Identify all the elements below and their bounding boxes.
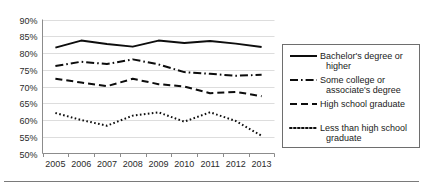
x-tick-label: 2010 (174, 159, 194, 169)
legend-label-1: Some college or (320, 75, 385, 85)
x-tick-label: 2006 (71, 159, 91, 169)
y-axis-tick-labels: 90%85%80%75%70%65%60%55%50% (19, 16, 37, 160)
x-tick-label: 2007 (97, 159, 117, 169)
y-tick-label: 70% (19, 83, 37, 93)
y-tick-label: 60% (19, 116, 37, 126)
x-tick-label: 2009 (148, 159, 168, 169)
y-tick-label: 80% (19, 49, 37, 59)
legend-label-2: High school graduate (320, 99, 405, 109)
legend-label-1-line2: associate's degree (326, 85, 401, 95)
x-tick-label: 2013 (252, 159, 272, 169)
line-chart: 90%85%80%75%70%65%60%55%50% 200520062007… (0, 0, 423, 187)
y-tick-label: 85% (19, 32, 37, 42)
chart-canvas: 90%85%80%75%70%65%60%55%50% 200520062007… (0, 0, 423, 187)
legend-label-0: Bachelor's degree or (320, 51, 403, 61)
x-tick-label: 2008 (123, 159, 143, 169)
x-tick-label: 2005 (45, 159, 65, 169)
x-tick-label: 2011 (200, 159, 219, 169)
legend-label-3-line2: graduate (326, 133, 362, 143)
y-tick-label: 65% (19, 99, 37, 109)
legend-label-0-line2: higher (326, 61, 351, 71)
y-tick-label: 75% (19, 66, 37, 76)
x-axis-tick-labels: 200520062007200820092010201120122013 (45, 159, 271, 169)
legend-label-3: Less than high school (320, 123, 407, 133)
y-tick-label: 55% (19, 133, 37, 143)
x-tick-label: 2012 (226, 159, 246, 169)
y-tick-label: 90% (19, 16, 37, 26)
y-tick-label: 50% (19, 150, 37, 160)
